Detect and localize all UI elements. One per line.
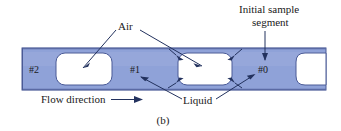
air-bubble-middle-shape bbox=[178, 53, 232, 85]
flow-direction-label: Flow direction bbox=[41, 93, 106, 105]
flow-direction-arrowhead bbox=[134, 96, 143, 103]
air-label: Air bbox=[118, 20, 133, 32]
segment-label-2: #2 bbox=[29, 64, 39, 75]
segment-label-1: #1 bbox=[130, 64, 140, 75]
segmented-flow-diagram: #2 #1 #0 Air Initial sample segment Flow… bbox=[0, 0, 341, 131]
segment-label-0: #0 bbox=[258, 64, 268, 75]
initial-sample-segment-label-line2: segment bbox=[252, 16, 289, 28]
initial-sample-segment-label-line1: Initial sample bbox=[239, 3, 299, 15]
air-bubble-left bbox=[56, 53, 112, 85]
flow-direction-arrow bbox=[111, 96, 143, 103]
air-bubble-right bbox=[296, 53, 326, 85]
air-bubble-left-shape bbox=[56, 53, 112, 85]
air-bubble-right-shape bbox=[296, 53, 326, 85]
liquid-label: Liquid bbox=[183, 94, 213, 106]
figure-container: #2 #1 #0 Air Initial sample segment Flow… bbox=[0, 0, 341, 131]
figure-caption: (b) bbox=[157, 114, 170, 127]
air-bubble-middle bbox=[178, 53, 232, 85]
